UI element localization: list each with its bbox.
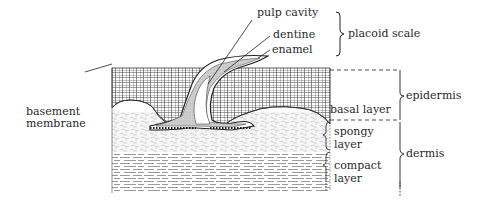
- compact-layer-label-1: compact: [334, 160, 381, 172]
- basement-membrane-leader: [85, 64, 112, 72]
- dermis-label: dermis: [406, 148, 444, 160]
- pulp-cavity-label: pulp cavity: [257, 7, 318, 19]
- spongy-layer-label-1: spongy: [334, 126, 374, 138]
- enamel-label: enamel: [272, 44, 313, 56]
- placoid-scale-brace: [336, 12, 344, 56]
- dentine-leader: [224, 36, 270, 72]
- epidermis-brace: [400, 70, 404, 120]
- epidermis-label: epidermis: [406, 90, 461, 102]
- dermis-brace: [400, 122, 404, 188]
- basement-membrane-label-2: membrane: [26, 118, 86, 130]
- compact-layer-label-2: layer: [334, 173, 362, 185]
- dentine-label: dentine: [273, 29, 315, 41]
- spongy-layer-label-2: layer: [334, 139, 362, 151]
- basal-layer-label: basal layer: [330, 104, 391, 116]
- compact-layer-region: [112, 150, 330, 193]
- placoid-scale-label: placoid scale: [348, 28, 420, 40]
